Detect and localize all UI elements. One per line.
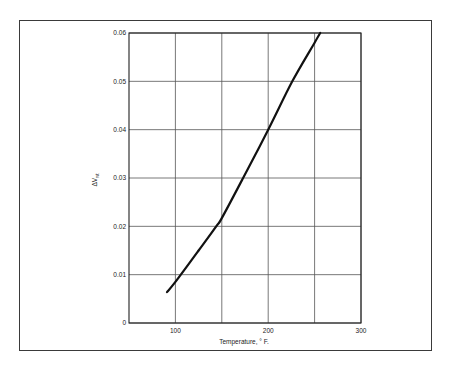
x-axis-label: Temperature, ° F.	[219, 338, 269, 346]
data-curve	[167, 33, 320, 292]
y-tick-label: 0.06	[113, 29, 126, 36]
y-tick-label: 0.02	[113, 223, 126, 230]
y-tick-label: 0.03	[113, 174, 126, 181]
y-axis-label: ΔVwt	[91, 173, 100, 187]
y-tick-label: 0.05	[113, 78, 126, 85]
x-tick-label: 200	[263, 327, 274, 334]
chart: 00.010.020.030.040.050.06 100200300 Temp…	[0, 0, 453, 369]
x-tick-label: 300	[356, 327, 367, 334]
svg-text:ΔVwt: ΔVwt	[91, 173, 100, 187]
x-axis-ticks: 100200300	[170, 327, 367, 334]
y-tick-label: 0	[122, 319, 126, 326]
y-axis-label-subscript: wt	[95, 173, 100, 178]
grid	[129, 33, 361, 323]
y-axis-ticks: 00.010.020.030.040.050.06	[113, 29, 126, 326]
y-tick-label: 0.04	[113, 126, 126, 133]
x-tick-label: 100	[170, 327, 181, 334]
y-tick-label: 0.01	[113, 271, 126, 278]
